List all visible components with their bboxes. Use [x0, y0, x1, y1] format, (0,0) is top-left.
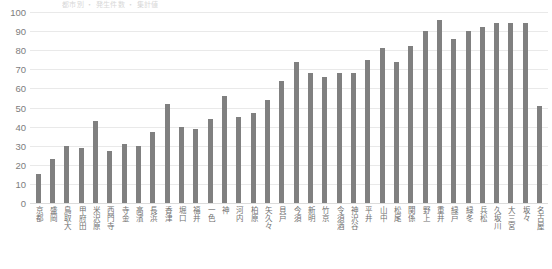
x-axis-labels: 京都盛岡鳥取大甲府田米沢原西門寺寺金高濱長浜香津堀口福井一色神河内柏原矢久々貝戸… [30, 206, 548, 268]
bar-slot [275, 12, 289, 203]
x-tick-label: 野上 [421, 206, 429, 222]
bar-slot [88, 12, 102, 203]
y-tick-label: 70 [0, 65, 26, 75]
bar[interactable] [79, 148, 84, 203]
bar[interactable] [308, 73, 313, 203]
bar[interactable] [494, 23, 499, 203]
x-label-slot: 今須 [289, 206, 303, 268]
bar-slot [303, 12, 317, 203]
bar[interactable] [294, 62, 299, 203]
x-label-slot: 堀口 [174, 206, 188, 268]
bar[interactable] [394, 62, 399, 203]
bar[interactable] [351, 73, 356, 203]
x-tick-label: 香津 [163, 206, 171, 222]
x-tick-label: 山中 [378, 206, 386, 222]
y-tick-label: 10 [0, 179, 26, 189]
x-tick-label: 久坂川 [493, 206, 501, 230]
bar[interactable] [337, 73, 342, 203]
bar[interactable] [122, 144, 127, 203]
x-label-slot: 香津 [160, 206, 174, 268]
bar[interactable] [251, 113, 256, 203]
bar[interactable] [222, 96, 227, 203]
bar[interactable] [208, 119, 213, 203]
bar[interactable] [179, 127, 184, 203]
bar[interactable] [165, 104, 170, 203]
bar[interactable] [365, 60, 370, 203]
x-tick-label: 盛岡 [48, 206, 56, 222]
bar-slot [318, 12, 332, 203]
bar-slot [103, 12, 117, 203]
y-tick-label: 30 [0, 141, 26, 151]
bar[interactable] [480, 27, 485, 203]
bar-chart: 都市別 ・ 発生件数 ・ 集計値 1009080706050403020100 … [0, 0, 552, 269]
bar[interactable] [107, 151, 112, 203]
x-label-slot: 西門寺 [103, 206, 117, 268]
bar[interactable] [437, 20, 442, 203]
bar[interactable] [423, 31, 428, 203]
x-label-slot: 盛岡 [45, 206, 59, 268]
bar-slot [475, 12, 489, 203]
bar-slot [346, 12, 360, 203]
x-label-slot: 寺金 [117, 206, 131, 268]
bar[interactable] [466, 31, 471, 203]
x-tick-label: 米沢原 [91, 206, 99, 230]
bar-slot [404, 12, 418, 203]
bar-slot [131, 12, 145, 203]
bar[interactable] [193, 129, 198, 203]
bar-slot [361, 12, 375, 203]
x-tick-label: 貝戸 [278, 206, 286, 222]
chart-top-note: 都市別 ・ 発生件数 ・ 集計値 [62, 0, 159, 8]
x-tick-label: 堀口 [177, 206, 185, 222]
x-label-slot: 令須酒 [332, 206, 346, 268]
bar[interactable] [279, 81, 284, 203]
bar[interactable] [508, 23, 513, 203]
bar[interactable] [36, 174, 41, 203]
x-label-slot: 山中 [375, 206, 389, 268]
bar[interactable] [380, 48, 385, 203]
bar-slot [217, 12, 231, 203]
bar-slot [160, 12, 174, 203]
x-tick-label: 寺金 [120, 206, 128, 222]
x-label-slot: 大三宮 [504, 206, 518, 268]
bar[interactable] [236, 117, 241, 203]
bar-slot [60, 12, 74, 203]
y-tick-label: 60 [0, 84, 26, 94]
bar[interactable] [64, 146, 69, 203]
x-tick-label: 神 [220, 206, 228, 214]
bar[interactable] [408, 46, 413, 203]
bar-slot [432, 12, 446, 203]
bar[interactable] [451, 39, 456, 203]
x-label-slot: 貝戸 [275, 206, 289, 268]
y-tick-label: 90 [0, 27, 26, 37]
bar[interactable] [150, 132, 155, 203]
x-label-slot: 神沢谷 [346, 206, 360, 268]
bar-slot [260, 12, 274, 203]
bar-slot [375, 12, 389, 203]
bar[interactable] [93, 121, 98, 203]
x-tick-label: 令須酒 [335, 206, 343, 230]
bar[interactable] [523, 23, 528, 203]
x-tick-label: 神沢谷 [349, 206, 357, 230]
x-tick-label: 河内 [235, 206, 243, 222]
bar-slot [203, 12, 217, 203]
x-label-slot: 米沢原 [88, 206, 102, 268]
y-tick-label: 80 [0, 46, 26, 56]
bar[interactable] [136, 146, 141, 203]
x-label-slot: 矢久々 [260, 206, 274, 268]
bar[interactable] [537, 106, 542, 203]
bar[interactable] [50, 159, 55, 203]
bar-slot [45, 12, 59, 203]
x-tick-label: 長浜 [149, 206, 157, 222]
bar-slot [389, 12, 403, 203]
x-label-slot: 関係 [404, 206, 418, 268]
x-tick-label: 甲府田 [77, 206, 85, 230]
x-tick-label: 重井 [435, 206, 443, 222]
axis-baseline [30, 203, 548, 204]
x-tick-label: 柏原 [249, 206, 257, 222]
bar-slot [31, 12, 45, 203]
bar[interactable] [322, 77, 327, 203]
bar[interactable] [265, 100, 270, 203]
x-label-slot: 竹京 [318, 206, 332, 268]
x-tick-label: 大三宮 [507, 206, 515, 230]
x-tick-label: 高濱 [134, 206, 142, 222]
